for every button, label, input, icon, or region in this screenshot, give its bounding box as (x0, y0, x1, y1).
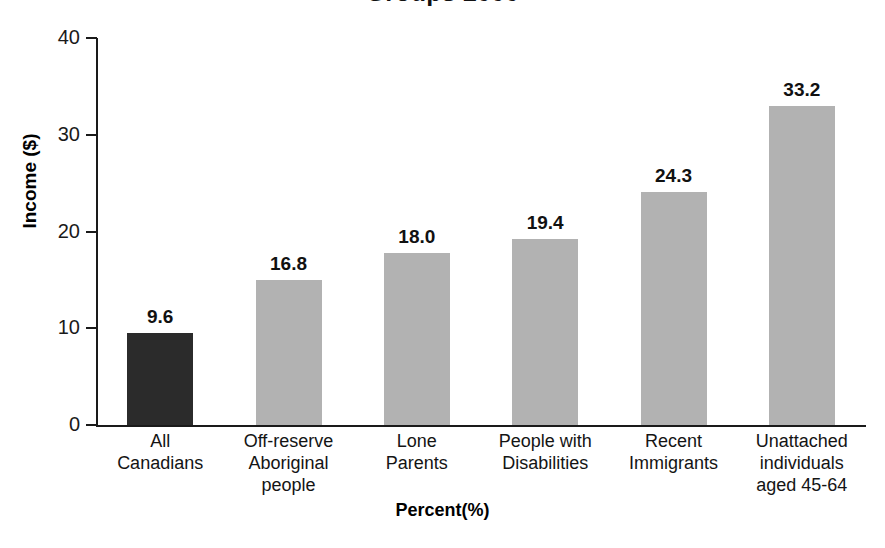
x-axis-title: Percent(%) (0, 500, 885, 521)
category-label-line: Immigrants (609, 452, 737, 474)
x-axis-category-label: RecentImmigrants (609, 430, 737, 474)
y-axis-tick-label: 0 (22, 414, 80, 434)
y-axis-tick-label: 30 (22, 124, 80, 144)
bar-value-label: 24.3 (614, 165, 734, 187)
category-label-line: All (96, 430, 224, 452)
category-label-line: Unattached (738, 430, 866, 452)
category-label-line: Aboriginal (224, 452, 352, 474)
bar-value-label: 18.0 (357, 226, 477, 248)
x-axis-line (96, 425, 866, 427)
plot-area: 9.616.818.019.424.333.2 (96, 38, 866, 425)
bar[interactable] (384, 253, 450, 425)
category-label-line: Disabilities (481, 452, 609, 474)
bar-value-label: 19.4 (485, 212, 605, 234)
bar[interactable] (769, 106, 835, 425)
category-label-line: Off-reserve (224, 430, 352, 452)
bar-value-label: 9.6 (100, 306, 220, 328)
bar[interactable] (127, 333, 193, 425)
category-label-line: people (224, 474, 352, 496)
y-axis-tick-label: 20 (22, 221, 80, 241)
bar-value-label: 16.8 (229, 253, 349, 275)
category-label-line: Parents (353, 452, 481, 474)
bar[interactable] (641, 192, 707, 425)
category-label-line: individuals (738, 452, 866, 474)
y-axis-tick-label: 40 (22, 27, 80, 47)
x-axis-category-label: Unattachedindividualsaged 45-64 (738, 430, 866, 496)
category-label-line: aged 45-64 (738, 474, 866, 496)
category-label-line: Recent (609, 430, 737, 452)
x-axis-category-label: LoneParents (353, 430, 481, 474)
bar[interactable] (512, 239, 578, 425)
x-axis-category-label: People withDisabilities (481, 430, 609, 474)
bar-value-label: 33.2 (742, 79, 862, 101)
category-label-line: People with (481, 430, 609, 452)
bar[interactable] (256, 280, 322, 425)
chart-title: Groups 2000 (0, 0, 885, 7)
x-axis-category-label: AllCanadians (96, 430, 224, 474)
category-label-line: Lone (353, 430, 481, 452)
y-axis-tick-label: 10 (22, 317, 80, 337)
x-axis-category-label: Off-reserveAboriginalpeople (224, 430, 352, 496)
chart-page: Groups 2000 Income ($) 010203040 9.616.8… (0, 0, 885, 548)
x-axis-category-labels: AllCanadiansOff-reserveAboriginalpeopleL… (96, 430, 866, 500)
category-label-line: Canadians (96, 452, 224, 474)
